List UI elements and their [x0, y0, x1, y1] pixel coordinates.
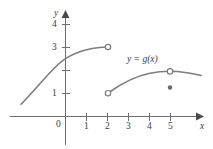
y-tick-label-4: 4	[52, 20, 57, 30]
x-tick-label-4: 4	[147, 122, 152, 132]
y-tick-label-3: 3	[52, 43, 57, 53]
x-axis-arrow-icon	[196, 113, 204, 121]
curve-left-branch	[21, 47, 107, 104]
origin-tick-label: 0	[56, 120, 61, 130]
x-tick-label-3: 3	[126, 122, 131, 132]
x-tick-label-5: 5	[168, 122, 173, 132]
y-axis-label: y	[54, 9, 58, 19]
curve-g-of-x	[108, 71, 201, 93]
open-circle-left-branch-end	[105, 44, 110, 49]
y-tick-label-1: 1	[52, 89, 57, 99]
function-annotation-label: y = g(x)	[127, 55, 158, 65]
x-tick-label-1: 1	[84, 122, 89, 132]
open-circle-g-start	[105, 91, 110, 96]
graph-figure: y x 0 1 2 3 4 5 1 3 4 y = g(x)	[0, 0, 213, 149]
x-axis-label: x	[200, 122, 204, 132]
open-circle-g-hole-at-5	[167, 69, 172, 74]
x-tick-label-2: 2	[105, 122, 110, 132]
filled-point-g-at-5	[168, 85, 172, 89]
y-axis-arrow-icon	[62, 10, 70, 18]
